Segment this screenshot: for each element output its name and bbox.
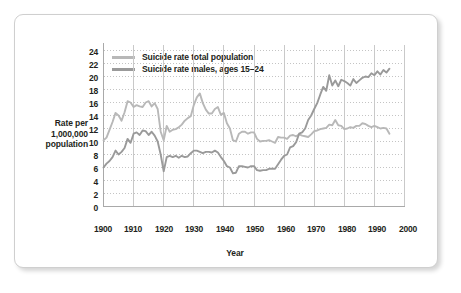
data-series	[104, 69, 390, 174]
suicide-rate-line-chart: Rate per 1,000,000 population Year 0 2 4…	[0, 0, 461, 293]
plot-area	[0, 0, 461, 293]
